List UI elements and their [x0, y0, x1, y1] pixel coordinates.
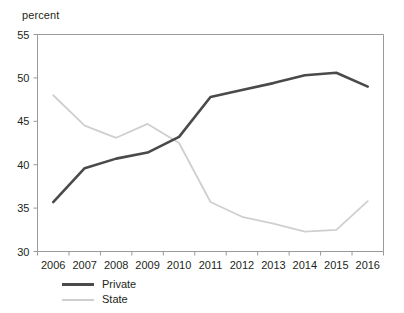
x-tick-label: 2012	[230, 259, 254, 271]
legend-swatch-state-icon	[62, 299, 94, 301]
x-tick-label: 2016	[356, 259, 380, 271]
plot-area: 303540455055 200620072008200920102011201…	[0, 0, 404, 313]
x-tick-label: 2009	[135, 259, 159, 271]
y-tick-label: 30	[17, 246, 29, 258]
y-tick-label: 50	[17, 72, 29, 84]
x-tick-label: 2008	[104, 259, 128, 271]
x-tick-labels: 2006200720082009201020112012201320142015…	[41, 259, 380, 271]
x-tick-label: 2006	[41, 259, 65, 271]
x-tick-label: 2011	[199, 259, 223, 271]
chart-legend: Private State	[62, 277, 136, 307]
x-tick-label: 2010	[167, 259, 191, 271]
x-tick-label: 2013	[261, 259, 285, 271]
legend-swatch-private-icon	[62, 283, 94, 286]
legend-item-private: Private	[62, 277, 136, 292]
y-tick-label: 45	[17, 115, 29, 127]
line-chart: percent 303540455055 2006200720082009201…	[0, 0, 404, 313]
legend-label-state: State	[102, 292, 128, 307]
series-line-private	[53, 73, 368, 202]
y-tick-label: 35	[17, 202, 29, 214]
legend-label-private: Private	[102, 277, 136, 292]
y-tick-label: 40	[17, 159, 29, 171]
series-layer	[53, 73, 368, 232]
y-tick-label: 55	[17, 29, 29, 41]
legend-item-state: State	[62, 292, 136, 307]
x-tick-label: 2015	[324, 259, 348, 271]
axis-layer	[34, 35, 384, 256]
y-tick-labels: 303540455055	[17, 29, 29, 258]
x-tick-label: 2007	[72, 259, 96, 271]
x-tick-label: 2014	[293, 259, 317, 271]
